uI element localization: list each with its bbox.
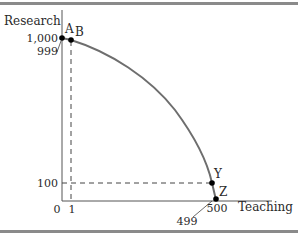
y-axis-label: Research [4,14,61,28]
point-b [68,37,74,43]
chart-frame: Research Teaching 1,000 999 100 0 1 499 … [0,0,300,240]
y-tick-100: 100 [37,177,58,190]
point-y-label: Y [213,167,223,181]
y-tick-1000: 1,000 [27,32,59,45]
x-tick-500: 500 [207,202,228,215]
frontier-curve [62,38,216,200]
point-z-label: Z [219,185,227,199]
point-a [59,35,65,41]
point-z [213,196,219,202]
point-b-label: B [75,25,84,39]
x-tick-499: 499 [177,215,198,228]
y-tick-999: 999 [37,45,58,58]
x-tick-1: 1 [69,203,76,216]
point-a-label: A [64,22,74,36]
point-y [209,180,215,186]
x-axis-label: Teaching [238,200,293,214]
x-tick-0: 0 [54,203,61,216]
bottom-border [0,230,298,233]
top-border [0,2,298,5]
ppf-chart: Research Teaching 1,000 999 100 0 1 499 … [0,0,300,240]
